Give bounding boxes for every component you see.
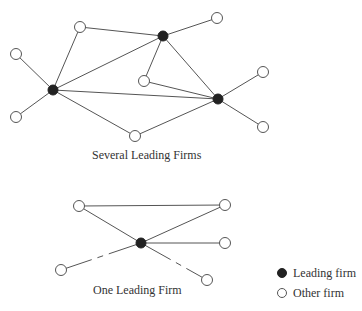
edge <box>53 90 218 99</box>
several-leading-firms-network: Several Leading Firms <box>11 13 269 163</box>
caption-one-leading-firm: One Leading Firm <box>93 283 182 297</box>
other-firm-node <box>11 49 22 60</box>
dashed-edge <box>141 243 207 280</box>
edge <box>16 90 53 117</box>
edge <box>218 72 263 99</box>
edge <box>79 206 141 243</box>
edge <box>53 27 80 90</box>
edge <box>163 36 218 99</box>
other-firm-legend-icon <box>278 289 287 298</box>
network-edges <box>16 18 263 136</box>
other-firm-node <box>56 265 67 276</box>
edge <box>144 36 163 81</box>
leading-firm-node <box>48 85 58 95</box>
legend: Leading firm Other firm <box>278 266 357 300</box>
leading-firm-node <box>158 31 168 41</box>
caption-several-leading-firms: Several Leading Firms <box>92 148 202 162</box>
edge <box>79 205 225 206</box>
other-firm-node <box>202 275 213 286</box>
other-firm-node <box>220 238 231 249</box>
edge <box>53 90 135 136</box>
leading-firm-legend-icon <box>278 269 287 278</box>
other-firm-node <box>11 112 22 123</box>
edge <box>141 205 225 243</box>
leading-firm-node <box>136 238 146 248</box>
other-firm-node <box>130 131 141 142</box>
dashed-edge <box>61 243 141 270</box>
edge <box>144 81 218 99</box>
edge <box>135 99 218 136</box>
legend-label-leading: Leading firm <box>293 266 357 280</box>
leading-firm-node <box>213 94 223 104</box>
other-firm-node <box>74 201 85 212</box>
one-leading-firm-network: One Leading Firm <box>56 200 231 298</box>
network-diagram-canvas: Several Leading Firms One Leading Firm L… <box>0 0 362 311</box>
other-firm-node <box>212 13 223 24</box>
other-firm-node <box>220 200 231 211</box>
other-firm-node <box>258 67 269 78</box>
other-firm-node <box>258 122 269 133</box>
other-firm-node <box>139 76 150 87</box>
edge <box>163 18 217 36</box>
edge <box>80 27 163 36</box>
other-firm-node <box>75 22 86 33</box>
network-nodes <box>11 13 269 142</box>
legend-label-other: Other firm <box>293 286 345 300</box>
edge <box>218 99 263 127</box>
edge <box>16 54 53 90</box>
